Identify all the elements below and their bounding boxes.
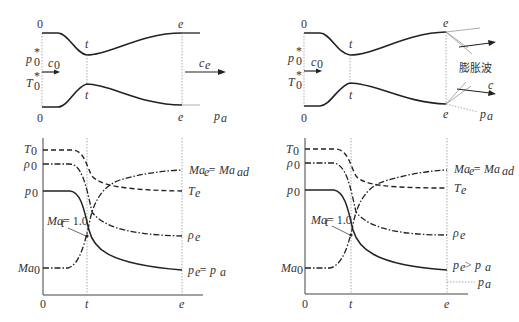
right-label-p-exit: p e > p a	[452, 258, 491, 274]
right-pressure-curve	[305, 190, 447, 270]
left-inlet-pressure-label: p 0 *	[25, 45, 40, 69]
svg-text:*: *	[296, 68, 302, 82]
left-y-label-p0: p 0	[24, 184, 38, 200]
right-y-label-p0: p 0	[286, 183, 300, 199]
svg-text:0: 0	[31, 159, 37, 173]
svg-text:0: 0	[317, 57, 323, 71]
svg-text:0: 0	[293, 144, 299, 158]
svg-text:0: 0	[31, 144, 37, 158]
right-label-T-exit: T e	[454, 181, 467, 197]
right-station-e-bottom: e	[443, 107, 449, 121]
right-inlet-temperature-label: T 0 *	[288, 68, 302, 92]
svg-text:= 1.0: = 1.0	[63, 214, 88, 228]
svg-text:*: *	[34, 45, 40, 59]
left-nozzle-upper-wall	[42, 33, 200, 55]
left-x-label-e: e	[179, 297, 185, 311]
right-station-0-bottom: 0	[301, 111, 307, 125]
left-ambient-pressure-label: p a	[213, 109, 227, 125]
nozzle-flow-diagram: 0 0 t t e e p 0 * T 0 * c 0 c e	[0, 0, 519, 322]
svg-text:0: 0	[34, 263, 40, 277]
svg-text:p: p	[287, 51, 294, 65]
right-nozzle-lower-wall	[304, 83, 446, 106]
svg-text:e: e	[205, 58, 211, 72]
svg-text:= Ma: = Ma	[473, 162, 500, 176]
left-station-t-top: t	[85, 37, 89, 51]
right-ambient-pressure-label: p a	[479, 107, 493, 123]
svg-text:a: a	[221, 111, 227, 125]
svg-text:ρ: ρ	[452, 226, 459, 240]
right-station-0-top: 0	[301, 17, 307, 31]
svg-text:p: p	[187, 263, 194, 277]
svg-text:a: a	[487, 109, 493, 123]
left-label-Ma-exit: Ma e = Ma ad	[188, 163, 250, 179]
left-chart: T 0 ρ 0 p 0 Ma 0 0 t e Ma t = 1.0	[17, 138, 250, 311]
expansion-wave-label: 膨胀波	[459, 61, 492, 75]
svg-text:e: e	[461, 183, 467, 197]
svg-text:Ma: Ma	[280, 261, 297, 275]
right-label-rho-exit: ρ e	[452, 226, 466, 242]
svg-text:0: 0	[32, 186, 38, 200]
svg-text:p: p	[24, 184, 31, 198]
right-throat-mach-annotation: Ma t = 1.0	[310, 213, 352, 229]
left-station-0-bottom: 0	[37, 111, 43, 125]
svg-text:ρ: ρ	[286, 156, 293, 170]
svg-text:ad: ad	[502, 164, 515, 178]
svg-text:a: a	[485, 277, 491, 291]
svg-text:p: p	[479, 107, 486, 121]
right-station-t-top: t	[349, 37, 353, 51]
svg-text:p: p	[25, 52, 32, 66]
svg-text:a: a	[485, 260, 491, 274]
left-label-rho-exit: ρ e	[187, 228, 201, 244]
left-pressure-curve	[43, 191, 182, 270]
left-temperature-curve	[43, 150, 182, 191]
exit-flow-arrow-icon	[218, 69, 226, 75]
svg-text:0: 0	[54, 58, 60, 72]
svg-text:0: 0	[294, 185, 300, 199]
right-inlet-pressure-label: p 0 *	[287, 44, 302, 68]
svg-text:p: p	[286, 183, 293, 197]
svg-text:Ma: Ma	[17, 261, 34, 275]
right-nozzle: 0 0 t t e e p 0 * T 0 * c 0 膨胀波 c p	[287, 16, 496, 125]
svg-text:T: T	[288, 75, 296, 89]
left-nozzle-lower-wall	[42, 84, 182, 107]
left-label-T-exit: T e	[188, 184, 201, 200]
right-x-label-0: 0	[302, 297, 308, 311]
right-temperature-curve	[305, 149, 447, 188]
left-x-label-t: t	[85, 297, 89, 311]
left-exit-velocity-label: c e	[199, 56, 211, 72]
left-inlet-temperature-label: T 0 *	[26, 69, 40, 93]
svg-text:Ma: Ma	[188, 163, 205, 177]
svg-text:> p: > p	[464, 258, 481, 272]
svg-text:ad: ad	[237, 165, 250, 179]
svg-text:0: 0	[297, 263, 303, 277]
right-y-label-Ma0: Ma 0	[280, 261, 303, 277]
svg-text:T: T	[26, 76, 34, 90]
right-exit-velocity-label: c	[488, 78, 494, 92]
left-y-label-Ma0: Ma 0	[17, 261, 40, 277]
svg-text:p: p	[477, 275, 484, 289]
right-station-e-top: e	[443, 16, 449, 30]
svg-text:e: e	[195, 230, 201, 244]
left-station-e-top: e	[178, 17, 184, 31]
left-station-0-top: 0	[37, 17, 43, 31]
svg-text:Ma: Ma	[453, 162, 470, 176]
svg-text:e: e	[460, 228, 466, 242]
svg-text:p: p	[213, 109, 220, 123]
svg-text:= p: = p	[199, 263, 216, 277]
left-throat-mach-annotation: Ma t = 1.0	[46, 214, 88, 230]
right-nozzle-upper-wall	[304, 32, 446, 55]
svg-text:ρ: ρ	[187, 228, 194, 242]
svg-text:e: e	[195, 186, 201, 200]
right-label-Ma-exit: Ma e = Ma ad	[453, 162, 515, 178]
svg-text:p: p	[452, 258, 459, 272]
left-y-label-T0: T 0	[24, 142, 37, 158]
svg-text:*: *	[296, 44, 302, 58]
svg-text:*: *	[34, 69, 40, 83]
svg-text:= Ma: = Ma	[208, 163, 235, 177]
svg-text:ρ: ρ	[23, 157, 30, 171]
right-x-label-t: t	[349, 297, 353, 311]
right-station-t-bottom: t	[349, 88, 353, 102]
left-x-label-0: 0	[40, 297, 46, 311]
left-station-t-bottom: t	[85, 88, 89, 102]
right-panel: 0 0 t t e e p 0 * T 0 * c 0 膨胀波 c p	[280, 16, 515, 311]
